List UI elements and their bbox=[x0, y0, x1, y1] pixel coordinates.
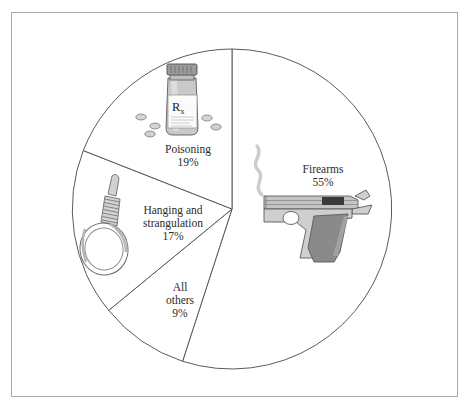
gun-ejection-port bbox=[322, 197, 344, 205]
figure-container: Rx bbox=[0, 0, 470, 409]
slice-label-poisoning-name: Poisoning bbox=[128, 143, 248, 156]
slice-label-hanging: Hanging and strangulation 17% bbox=[114, 204, 232, 243]
slice-label-firearms: Firearms 55% bbox=[268, 163, 378, 189]
slice-label-poisoning: Poisoning 19% bbox=[128, 143, 248, 169]
bottle-cap bbox=[167, 64, 197, 75]
slice-label-hanging-name-line2: strangulation bbox=[114, 217, 232, 230]
gun-trigger-guard bbox=[283, 212, 299, 225]
slice-label-all-others-value: 9% bbox=[138, 307, 222, 320]
slice-label-firearms-name: Firearms bbox=[268, 163, 378, 176]
slice-label-hanging-name-line1: Hanging and bbox=[114, 204, 232, 217]
slice-label-all-others-name-line1: All bbox=[138, 281, 222, 294]
slice-label-firearms-value: 55% bbox=[268, 176, 378, 189]
slice-label-all-others: All others 9% bbox=[138, 281, 222, 320]
pie-chart-graphic: Rx bbox=[0, 0, 470, 409]
slice-label-all-others-name-line2: others bbox=[138, 294, 222, 307]
slice-label-hanging-value: 17% bbox=[114, 230, 232, 243]
slice-label-poisoning-value: 19% bbox=[128, 156, 248, 169]
